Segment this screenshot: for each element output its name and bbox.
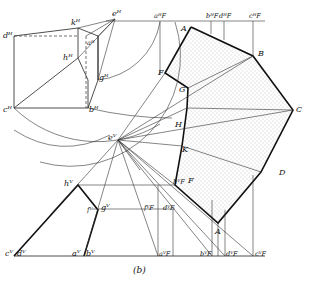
label-b-v: bⱽ [86, 249, 96, 258]
label-d-f-v2: dⱽF [226, 250, 238, 258]
label-d-f-h: dᴴF [219, 12, 232, 20]
label-f-v: fⱽ [86, 206, 93, 214]
label-h-v: hⱽ [64, 179, 74, 188]
label-a-h: aᴴ [87, 39, 95, 47]
label-c-h: cᴴ [3, 105, 12, 114]
diagram-svg: dᴴ kᴴ eᴴ aᴴ hᴴ gᴴ cᴴ bᴴ aᴴF bᴴF dᴴF cᴴF … [0, 0, 310, 281]
label-h-f: hⱽF [173, 178, 185, 186]
figure-caption: (b) [133, 265, 146, 275]
label-a-f-v: aⱽF [159, 250, 171, 258]
label-f-f-v: fⱽF [143, 204, 154, 212]
label-d-f-v: dⱽF [163, 204, 175, 212]
label-K: K [181, 145, 189, 154]
label-e-h: eᴴ [112, 9, 122, 18]
label-C: C [296, 105, 302, 114]
label-A-top: A [180, 24, 187, 33]
label-F-top: F [157, 68, 164, 77]
label-a-v: aⱽ [72, 249, 82, 258]
label-D: D [278, 168, 286, 177]
label-a-f-h: aᴴF [154, 12, 166, 20]
label-b-h: bᴴ [89, 105, 99, 114]
label-e-v: eⱽ [108, 133, 118, 142]
label-k-h: kᴴ [71, 18, 81, 27]
label-g-h: gᴴ [99, 73, 109, 82]
label-d-h: dᴴ [3, 31, 13, 40]
label-b-f-h: bᴴF [206, 12, 219, 20]
label-c-f-v: cⱽF [255, 250, 267, 258]
label-A-bottom: A [214, 227, 221, 236]
shadow-polygon [165, 27, 293, 223]
label-b-f-v: bⱽF [200, 250, 212, 258]
label-G: G [179, 85, 186, 94]
label-h-h: hᴴ [63, 53, 73, 62]
label-g-v: gⱽ [101, 203, 111, 212]
shadow-construction-diagram: dᴴ kᴴ eᴴ aᴴ hᴴ gᴴ cᴴ bᴴ aᴴF bᴴF dᴴF cᴴF … [0, 0, 310, 281]
label-d-v: dⱽ [17, 249, 27, 258]
label-F-bottom: F [187, 176, 194, 185]
label-H: H [174, 120, 183, 129]
label-B: B [257, 49, 264, 58]
label-c-v: cⱽ [5, 249, 14, 258]
label-c-f-h: cᴴF [249, 12, 261, 20]
